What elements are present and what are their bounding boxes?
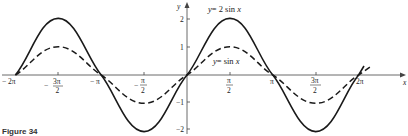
sine-graph-figure: y= 2 sin x y= sin x y x − 2π − 3π 2 − π … [0, 0, 408, 136]
x-tick-labels: − 2π − 3π 2 − π − π 2 π 2 π 3π 2 2π [2, 76, 364, 95]
y-axis-arrow-icon [185, 2, 190, 8]
xtick-neg-pi2-den: 2 [141, 86, 145, 95]
xtick-neg-pi2-sign: − [134, 81, 138, 90]
xtick-pi: π [270, 77, 274, 86]
xtick-3pi2-num: 3π [311, 76, 319, 85]
label-sin-x: y= sin x [212, 56, 240, 66]
x-axis-label: x [402, 78, 407, 87]
label-2-sin-x: y= 2 sin x [207, 4, 241, 14]
ytick-2: 2 [180, 15, 184, 24]
xtick-neg-2pi: − 2π [2, 77, 16, 86]
xtick-neg-3pi2-sign: − [44, 81, 48, 90]
ytick-neg-1: −1 [176, 98, 184, 107]
xtick-neg-pi2-num: π [141, 76, 145, 85]
x-axis [2, 73, 406, 78]
xtick-neg-pi: − π [90, 77, 100, 86]
xtick-pi2-den: 2 [227, 86, 231, 95]
y-axis [185, 2, 190, 134]
xtick-neg-3pi2-den: 2 [56, 86, 60, 95]
y-axis-label: y [176, 2, 181, 11]
ytick-1: 1 [180, 43, 184, 52]
xtick-3pi2-den: 2 [313, 86, 317, 95]
figure-caption: Figure 34 [2, 128, 38, 136]
xtick-neg-3pi2-num: 3π [53, 77, 61, 86]
ytick-neg-2: −2 [176, 125, 184, 134]
y-tick-labels: 2 1 −1 −2 [176, 15, 184, 134]
xtick-pi2-num: π [227, 76, 231, 85]
x-axis-arrow-icon [400, 73, 406, 78]
xtick-2pi: 2π [356, 77, 364, 86]
